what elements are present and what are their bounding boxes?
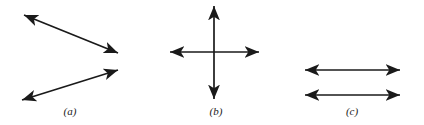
panel-a-arrows [22, 15, 118, 100]
arrow-a-lower [22, 70, 118, 100]
panel-b-arrows [170, 6, 259, 99]
panel-label-b: (b) [210, 106, 223, 117]
figure-container: (a) (b) (c) [0, 0, 424, 125]
panel-label-a: (a) [64, 106, 77, 117]
arrow-a-upper [24, 15, 118, 53]
panel-c-arrows [305, 70, 400, 95]
panel-label-c: (c) [346, 106, 358, 117]
